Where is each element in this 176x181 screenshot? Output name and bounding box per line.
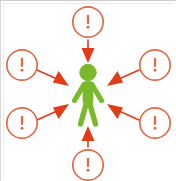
alert-upper-left[interactable]: [7, 50, 37, 80]
alert-lower-right[interactable]: [140, 108, 170, 138]
arrow-from-lower-left: [37, 104, 69, 120]
exclamation-icon: [154, 116, 157, 130]
exclamation-icon: [154, 58, 157, 72]
scene-svg: [0, 0, 176, 181]
illustration-canvas: [0, 0, 176, 181]
alert-bottom[interactable]: [73, 150, 103, 180]
figure-arm-left: [75, 85, 85, 101]
figure-leg-right: [89, 101, 96, 124]
exclamation-icon: [87, 158, 90, 172]
figure-head: [80, 64, 96, 80]
exclamation-icon: [87, 15, 90, 29]
arrow-from-lower-right: [107, 104, 139, 120]
warning-scene: [0, 0, 176, 181]
arrow-from-top: [82, 40, 95, 63]
arrow-from-upper-left: [37, 70, 69, 86]
alert-top[interactable]: [73, 7, 103, 37]
figure-leg-left: [81, 101, 88, 124]
alert-lower-left[interactable]: [7, 108, 37, 138]
arrow-from-bottom: [82, 126, 95, 147]
figure-arm-right: [92, 85, 102, 101]
alert-upper-right[interactable]: [140, 50, 170, 80]
exclamation-icon: [21, 58, 24, 72]
exclamation-icon: [21, 116, 24, 130]
green-stick-figure: [75, 64, 102, 124]
arrow-from-upper-right: [107, 70, 139, 86]
